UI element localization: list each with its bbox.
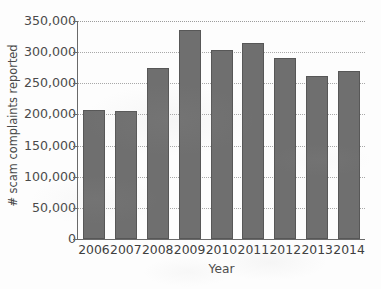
y-axis-tick-mark [73, 83, 78, 84]
x-axis-tick-label: 2014 [333, 242, 365, 257]
y-axis-tick-mark [73, 177, 78, 178]
x-axis-tick-label: 2012 [269, 242, 301, 257]
x-axis-title: Year [78, 262, 365, 276]
y-axis-tick-mark [73, 52, 78, 53]
y-axis-tick-label: 150,000 [2, 140, 76, 152]
y-axis-tick-mark [73, 239, 78, 240]
y-axis-tick-label: 250,000 [2, 77, 76, 89]
bar [274, 58, 296, 239]
x-axis-tick-label: 2011 [237, 242, 269, 257]
y-axis-tick-labels: 050,000100,000150,000200,000250,000300,0… [0, 0, 76, 289]
y-axis-tick-mark [73, 114, 78, 115]
x-axis-tick-labels: 200620072008200920102011201220132014 [78, 242, 365, 260]
x-axis-tick-label: 2006 [78, 242, 110, 257]
bar [179, 30, 201, 239]
x-axis-line [77, 239, 365, 240]
plot-area [78, 21, 365, 239]
y-axis-tick-label: 50,000 [2, 202, 76, 214]
bar [115, 111, 137, 239]
x-axis-tick-label: 2009 [174, 242, 206, 257]
bar [83, 110, 105, 239]
x-axis-tick-label: 2013 [301, 242, 333, 257]
x-axis-tick-label: 2007 [110, 242, 142, 257]
y-axis-tick-mark [73, 208, 78, 209]
chart-figure: # scam complaints reported 050,000100,00… [0, 0, 381, 289]
bar [338, 71, 360, 239]
bar [306, 76, 328, 239]
y-axis-tick-label: 200,000 [2, 108, 76, 120]
bar [242, 43, 264, 239]
y-axis-tick-label: 100,000 [2, 171, 76, 183]
y-axis-tick-mark [73, 21, 78, 22]
y-axis-tick-label: 0 [2, 233, 76, 245]
bar [147, 68, 169, 239]
y-axis-tick-mark [73, 146, 78, 147]
y-axis-tick-label: 300,000 [2, 46, 76, 58]
bar [211, 50, 233, 239]
x-axis-tick-label: 2010 [206, 242, 238, 257]
x-axis-tick-label: 2008 [142, 242, 174, 257]
gridline [78, 21, 365, 22]
y-axis-tick-label: 350,000 [2, 15, 76, 27]
